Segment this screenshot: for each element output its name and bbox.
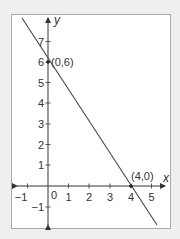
y-tick-label: 4 (38, 97, 44, 109)
point-label-4-0: (4,0) (131, 170, 154, 182)
y-tick-label: 3 (38, 118, 44, 130)
x-tick-label: 5 (148, 191, 154, 203)
point-label-0-6: (0,6) (51, 56, 74, 68)
x-tick-label: 1 (65, 191, 71, 203)
x-tick-label: −1 (15, 191, 28, 203)
point-0-6 (46, 60, 50, 64)
x-tick-label-origin: 0 (51, 189, 57, 201)
y-tick-label: 6 (38, 56, 44, 68)
y-tick-label: 7 (38, 36, 44, 48)
coordinate-plane: y x (0,6) (4,0) −1 0 1 2 3 4 5 7 6 5 4 3… (0, 0, 180, 239)
y-axis-label: y (53, 13, 61, 27)
x-tick-label: 2 (86, 191, 92, 203)
x-axis-label: x (162, 171, 170, 185)
y-tick-label: 5 (38, 77, 44, 89)
point-4-0 (129, 184, 133, 188)
y-tick-label: −1 (31, 201, 44, 213)
x-tick-label: 4 (128, 191, 134, 203)
x-tick-label: 3 (107, 191, 113, 203)
y-tick-label: 2 (38, 139, 44, 151)
y-tick-label: 1 (38, 159, 44, 171)
